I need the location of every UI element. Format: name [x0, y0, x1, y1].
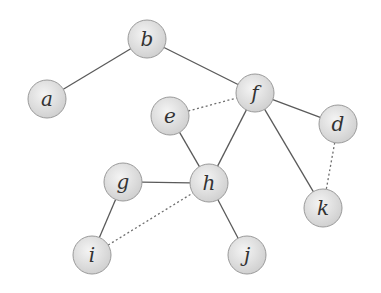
node-e: e — [151, 97, 189, 135]
node-label: b — [141, 27, 154, 51]
node-j: j — [228, 236, 266, 274]
node-i: i — [73, 236, 111, 274]
edge-e-h — [180, 132, 200, 166]
graph-diagram: abfedghkij — [0, 0, 381, 293]
node-label: i — [89, 243, 95, 267]
nodes-layer: abfedghkij — [28, 20, 357, 274]
edge-g-i — [99, 200, 115, 238]
node-h: h — [190, 164, 228, 202]
node-label: e — [164, 104, 176, 128]
edge-a-b — [63, 49, 130, 89]
node-label: g — [117, 170, 130, 194]
edge-f-d — [273, 100, 320, 118]
node-b: b — [128, 20, 166, 58]
node-label: h — [203, 171, 216, 195]
node-label: d — [332, 112, 345, 136]
node-k: k — [304, 189, 342, 227]
edge-h-j — [218, 200, 238, 238]
edge-f-k — [265, 109, 314, 191]
edge-e-f — [188, 98, 236, 111]
node-d: d — [319, 105, 357, 143]
node-a: a — [28, 80, 66, 118]
node-f: f — [236, 74, 274, 112]
edges-layer — [63, 48, 334, 246]
edge-b-f — [164, 48, 238, 85]
edge-g-h — [142, 182, 190, 183]
node-g: g — [104, 163, 142, 201]
edge-d-k — [326, 143, 334, 190]
edge-f-h — [218, 110, 247, 166]
node-label: a — [41, 87, 53, 111]
node-label: k — [317, 196, 329, 220]
